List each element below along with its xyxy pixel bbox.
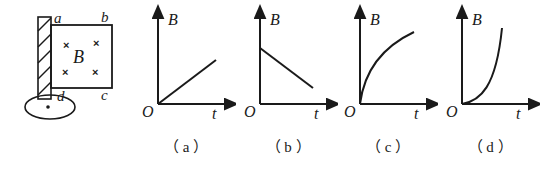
graph-panel-d: B O t （ d ） xyxy=(440,0,540,177)
fixed-wall-hatched xyxy=(38,17,51,99)
graph-panel-a: B O t （ a ） xyxy=(136,0,236,177)
graph-caption-c: （ c ） xyxy=(338,140,438,155)
apparatus-diagram: a b c d B × × × × xyxy=(0,0,135,177)
x-axis-label: t xyxy=(314,106,318,122)
data-line-a xyxy=(158,60,216,104)
field-into-page-icon: × xyxy=(92,67,98,78)
field-into-page-icon: × xyxy=(93,38,99,49)
origin-label: O xyxy=(446,104,458,120)
y-axis-label: B xyxy=(370,12,380,28)
loop-corner-label-b: b xyxy=(101,10,109,25)
loop-corner-label-d: d xyxy=(57,89,65,104)
origin-label: O xyxy=(142,104,154,120)
physics-figure: a b c d B × × × × B O t （ a ） xyxy=(0,0,550,177)
data-curve-c xyxy=(360,32,414,104)
y-axis-label: B xyxy=(168,12,178,28)
apparatus-svg xyxy=(0,0,135,177)
magnetic-field-label: B xyxy=(73,48,84,66)
graph-panel-c: B O t （ c ） xyxy=(338,0,438,177)
y-axis-label: B xyxy=(270,12,280,28)
graph-caption-d: （ d ） xyxy=(440,140,540,155)
graph-panel-b: B O t （ b ） xyxy=(238,0,338,177)
field-into-page-icon: × xyxy=(62,67,68,78)
x-axis-label: t xyxy=(212,106,216,122)
x-axis-label: t xyxy=(516,106,520,122)
x-axis-label: t xyxy=(414,106,418,122)
origin-label: O xyxy=(244,104,256,120)
loop-corner-label-c: c xyxy=(101,88,108,103)
y-axis-label: B xyxy=(472,12,482,28)
loop-corner-label-a: a xyxy=(54,11,62,26)
graph-caption-b: （ b ） xyxy=(238,140,338,155)
graph-caption-a: （ a ） xyxy=(136,140,236,155)
data-line-b xyxy=(260,48,313,88)
origin-label: O xyxy=(344,104,356,120)
field-into-page-icon: × xyxy=(63,40,69,51)
data-curve-d xyxy=(462,28,502,104)
